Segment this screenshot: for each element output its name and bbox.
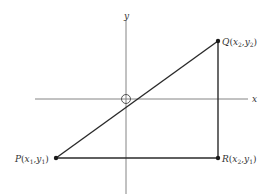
hypotenuse-pq xyxy=(56,41,218,158)
point-p xyxy=(54,156,58,160)
right-triangle-diagram: x y Q(x2,y2) P(x1,y1) R(x2,y1) xyxy=(0,0,275,195)
y-axis-label: y xyxy=(123,11,130,21)
label-r: R(x2,y1) xyxy=(221,154,257,165)
x-axis-label: x xyxy=(252,94,257,104)
label-p: P(x1,y1) xyxy=(14,154,49,165)
point-r xyxy=(216,156,220,160)
point-q xyxy=(216,39,220,43)
label-q: Q(x2,y2) xyxy=(222,37,257,48)
